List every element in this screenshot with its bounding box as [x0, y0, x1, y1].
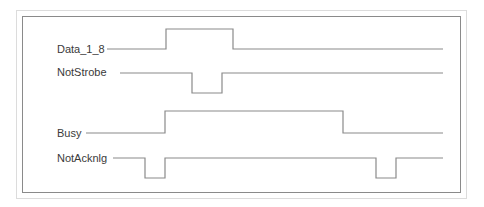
- waveforms: [0, 0, 484, 207]
- waveform-busy: [86, 111, 443, 133]
- waveform-notacknlg: [113, 158, 443, 178]
- waveform-data: [107, 29, 443, 49]
- waveform-notstrobe: [120, 73, 443, 93]
